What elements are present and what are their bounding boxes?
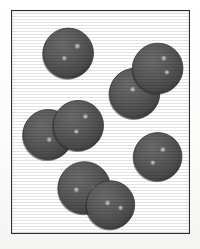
sphere-highlight xyxy=(129,86,135,92)
particle-diatomic-top-right xyxy=(108,43,183,120)
sphere-highlight xyxy=(74,43,81,50)
sphere-highlight xyxy=(46,136,52,142)
sphere-body xyxy=(43,28,93,78)
sphere-body xyxy=(53,100,103,150)
sphere-highlight xyxy=(150,160,156,166)
sphere xyxy=(85,181,134,231)
sphere-body xyxy=(133,43,183,93)
sphere-highlight xyxy=(118,205,124,211)
sphere xyxy=(52,100,103,152)
figure-root xyxy=(0,0,200,249)
particle-single-atom-middle-right xyxy=(133,133,182,183)
particle-diatomic-bottom xyxy=(57,162,135,231)
sphere-highlight xyxy=(161,55,167,61)
figure-caption xyxy=(11,236,190,248)
particle-diatomic-middle-left xyxy=(22,100,104,161)
sphere-highlight xyxy=(82,113,88,119)
sphere xyxy=(133,133,182,183)
sphere-highlight xyxy=(61,55,67,61)
sphere xyxy=(132,43,183,95)
particle-single-atom-top-left xyxy=(42,28,93,80)
molecule-diagram-canvas xyxy=(12,11,189,233)
sphere-highlight xyxy=(73,187,79,193)
sphere-highlight xyxy=(104,200,110,206)
illustration-frame xyxy=(11,10,190,234)
sphere-body xyxy=(134,133,182,181)
sphere-highlight xyxy=(164,69,170,75)
sphere-body xyxy=(86,181,134,229)
sphere-highlight xyxy=(73,129,79,135)
particles-layer xyxy=(22,28,183,230)
sphere-highlight xyxy=(160,146,166,152)
sphere xyxy=(42,28,93,80)
